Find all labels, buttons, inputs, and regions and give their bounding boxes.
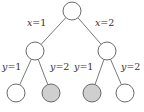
tree-canvas: [0, 0, 144, 112]
tree-node-x1y1: [7, 84, 25, 102]
tree-node-x1y2-highlighted: [42, 84, 60, 102]
tree-node-x2y2: [116, 84, 134, 102]
tree-node-x1: [26, 42, 44, 60]
tree-node-x2y1-highlighted: [83, 84, 101, 102]
edge-x1-x1y1: [20, 59, 32, 85]
edge-x2-x2y2: [111, 59, 122, 84]
tree-node-root: [63, 2, 81, 20]
edge-label-right-y-1: y=1: [74, 62, 93, 72]
edge-label-left-y-1: y=1: [2, 62, 21, 72]
edge-label-left-y-2: y=2: [50, 62, 69, 72]
edge-label-x-2: x=2: [95, 18, 114, 28]
edge-x1-x1y2: [38, 59, 48, 84]
edge-label-right-y-2: y=2: [121, 62, 140, 72]
decision-tree-diagram: x=1 x=2 y=1 y=2 y=1 y=2: [0, 0, 144, 112]
edge-label-x-1: x=1: [27, 18, 46, 28]
tree-node-x2: [98, 42, 116, 60]
edge-x2-x2y1: [95, 59, 104, 84]
